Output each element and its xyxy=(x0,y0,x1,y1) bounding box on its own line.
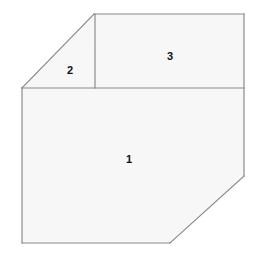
region-1-shape xyxy=(22,88,244,243)
region-3-label: 3 xyxy=(167,51,173,62)
geometry-figure: 1 2 3 xyxy=(0,0,258,259)
figure-svg xyxy=(0,0,258,259)
region-1-label: 1 xyxy=(126,154,132,165)
region-2-label: 2 xyxy=(67,65,73,76)
